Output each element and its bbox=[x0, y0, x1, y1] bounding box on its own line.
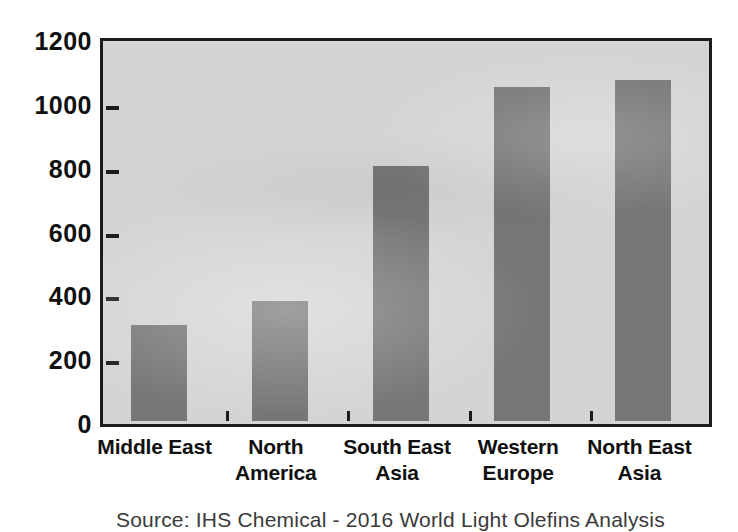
plot-area bbox=[100, 38, 712, 427]
x-axis-category-label-line: Middle East bbox=[97, 435, 212, 458]
bar bbox=[252, 301, 308, 421]
bar bbox=[373, 166, 429, 421]
y-axis-tick-label: 600 bbox=[0, 221, 92, 246]
y-axis-tick-mark bbox=[106, 361, 119, 365]
y-axis-tick-label: 1200 bbox=[0, 29, 92, 54]
bar bbox=[494, 87, 550, 421]
y-axis-tick-label: 1000 bbox=[0, 93, 92, 118]
y-axis-tick-label: 200 bbox=[0, 348, 92, 373]
x-axis-category-label: North EastAsia bbox=[579, 434, 700, 486]
y-axis-tick-mark bbox=[106, 234, 119, 238]
x-axis-category-label-line: America bbox=[215, 460, 336, 486]
y-axis-tick-label: 400 bbox=[0, 284, 92, 309]
x-axis-category-label: NorthAmerica bbox=[215, 434, 336, 486]
x-axis-tick-mark bbox=[469, 411, 472, 421]
y-axis-tick-mark bbox=[106, 170, 119, 174]
x-axis-tick-mark bbox=[590, 411, 593, 421]
x-axis-tick-mark bbox=[226, 411, 229, 421]
x-axis-category-label: WesternEurope bbox=[458, 434, 579, 486]
y-axis-tick-mark bbox=[106, 106, 119, 110]
x-axis-category-label: South EastAsia bbox=[336, 434, 457, 486]
source-note: Source: IHS Chemical - 2016 World Light … bbox=[116, 508, 738, 532]
x-axis-tick-mark bbox=[347, 411, 350, 421]
y-axis-tick-label: 800 bbox=[0, 157, 92, 182]
x-axis-category-label-line: North East bbox=[587, 435, 691, 458]
plot-inner bbox=[106, 44, 706, 421]
bar bbox=[131, 325, 187, 421]
x-axis-category-label-line: Europe bbox=[458, 460, 579, 486]
x-axis-category-label-line: Asia bbox=[579, 460, 700, 486]
x-axis-category-label-line: Asia bbox=[336, 460, 457, 486]
x-axis-labels: Middle EastNorthAmericaSouth EastAsiaWes… bbox=[100, 434, 712, 494]
x-axis-category-label-line: North bbox=[248, 435, 303, 458]
x-axis-category-label: Middle East bbox=[94, 434, 215, 460]
x-axis-category-label-line: Western bbox=[478, 435, 559, 458]
x-axis-category-label-line: South East bbox=[343, 435, 451, 458]
y-axis-labels: 020040060080010001200 bbox=[0, 0, 92, 529]
bar bbox=[615, 80, 671, 422]
y-axis-tick-mark bbox=[106, 297, 119, 301]
y-axis-tick-label: 0 bbox=[0, 412, 92, 437]
